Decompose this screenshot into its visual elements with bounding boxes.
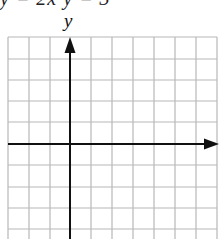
x-axis	[8, 139, 219, 150]
coordinate-grid	[0, 0, 223, 239]
y-axis	[65, 37, 76, 239]
y-axis-arrow-icon	[65, 37, 76, 53]
grid-lines	[8, 37, 217, 239]
y-axis-label: y	[64, 10, 72, 32]
